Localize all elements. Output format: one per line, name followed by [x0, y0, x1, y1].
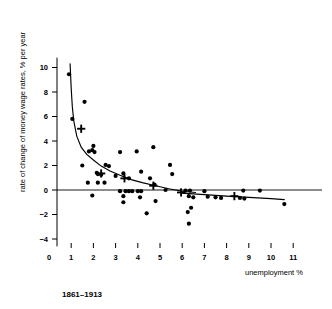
- data-point: [139, 170, 143, 174]
- x-axis-tick-label: 1: [69, 253, 73, 262]
- data-point: [242, 196, 246, 200]
- y-axis-tick-label: 8: [44, 88, 48, 97]
- x-axis-tick-label: 9: [247, 253, 251, 262]
- data-point: [153, 199, 157, 203]
- data-point: [213, 195, 217, 199]
- phillips-curve-figure: −4−20246810 01234567891011 rate of chang…: [0, 0, 332, 309]
- data-point: [121, 194, 125, 198]
- data-point: [92, 150, 96, 154]
- data-point: [87, 149, 91, 153]
- data-point: [187, 222, 191, 226]
- x-axis-tick-label: 3: [114, 253, 118, 262]
- data-point: [82, 100, 86, 104]
- data-point: [118, 150, 122, 154]
- x-axis-title: unemployment %: [245, 268, 303, 277]
- data-point: [145, 211, 149, 215]
- data-point: [206, 195, 210, 199]
- y-axis-tick-label: 0: [44, 186, 48, 195]
- y-axis-tick-label: 2: [44, 161, 48, 170]
- chart-background: [0, 0, 332, 309]
- data-point: [189, 206, 193, 210]
- x-axis-tick-label: 2: [91, 253, 95, 262]
- data-point: [67, 72, 71, 76]
- data-point: [282, 202, 286, 206]
- y-axis-title: rate of change of money wage rates, % pe…: [18, 31, 27, 192]
- x-axis-tick-label: 6: [180, 253, 184, 262]
- y-axis-tick-label: −4: [39, 235, 48, 244]
- data-point: [241, 189, 245, 193]
- x-axis-tick-label: 11: [289, 253, 297, 262]
- data-point: [139, 189, 143, 193]
- data-point: [168, 163, 172, 167]
- data-point: [96, 181, 100, 185]
- y-axis-tick-label: 10: [40, 63, 48, 72]
- x-axis-tick-label: 10: [267, 253, 275, 262]
- data-point: [90, 193, 94, 197]
- data-point: [188, 189, 192, 193]
- data-point: [163, 188, 167, 192]
- data-point: [186, 210, 190, 214]
- data-point: [70, 117, 74, 121]
- data-point: [151, 145, 155, 149]
- y-axis-tick-label: 6: [44, 112, 48, 121]
- data-point: [170, 172, 174, 176]
- data-point: [187, 194, 191, 198]
- x-axis-tick-label: 5: [158, 253, 162, 262]
- data-point: [80, 163, 84, 167]
- data-point: [114, 174, 118, 178]
- figure-caption: 1861–1913: [62, 290, 103, 299]
- data-point: [138, 195, 142, 199]
- chart-canvas: −4−20246810 01234567891011 rate of chang…: [0, 0, 332, 309]
- data-point: [91, 144, 95, 148]
- data-point: [107, 164, 111, 168]
- data-point: [130, 189, 134, 193]
- data-point: [258, 189, 262, 193]
- x-axis-tick-label: 7: [202, 253, 206, 262]
- data-point: [118, 189, 122, 193]
- data-point: [86, 181, 90, 185]
- data-point: [202, 189, 206, 193]
- y-axis-tick-label: −2: [39, 210, 48, 219]
- data-point: [121, 200, 125, 204]
- data-point: [191, 195, 195, 199]
- data-point: [219, 196, 223, 200]
- x-axis-tick-label: 0: [47, 253, 51, 262]
- data-point: [135, 149, 139, 153]
- data-point: [148, 176, 152, 180]
- data-point: [102, 181, 106, 185]
- x-axis-tick-label: 8: [225, 253, 229, 262]
